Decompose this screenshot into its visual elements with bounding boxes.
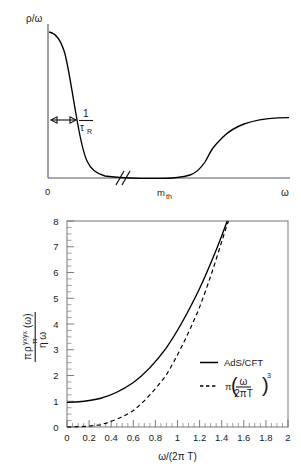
figure-root: ρ/ω 1 τ R 0 m th ω	[0, 0, 301, 469]
y-tick-3: 3	[53, 344, 74, 355]
legend: AdS/CFT π ( ) ω 2πT 3	[200, 357, 271, 399]
x-tick-label-7: 1.4	[215, 432, 228, 443]
x-tick-label-6: 1.2	[193, 432, 206, 443]
x-tick-label-8: 1.6	[237, 432, 250, 443]
top-y-axis-label: ρ/ω	[26, 13, 42, 24]
x-tick-label-4: 0.8	[149, 432, 162, 443]
x-tick-0: 0	[64, 420, 69, 443]
y-tick-2: 2	[53, 370, 74, 381]
y-tick-label-4: 4	[53, 319, 58, 330]
x-tick-label-5: 1	[175, 432, 180, 443]
relaxation-width-arrow	[51, 117, 76, 123]
y-tick-label-2: 2	[53, 370, 58, 381]
x-tick-10: 2	[285, 420, 290, 443]
x-tick-4: 0.8	[149, 420, 162, 443]
x-tick-6: 1.2	[193, 420, 206, 443]
y-tick-label-6: 6	[53, 267, 58, 278]
bottom-panel-adscft-plot: 0 1 2 3 4 5 6	[0, 212, 301, 469]
y-tick-label-7: 7	[53, 241, 58, 252]
y-axis-label-pi: π	[22, 353, 33, 360]
y-tick-label-5: 5	[53, 293, 58, 304]
top-curve-spectral-function	[49, 32, 289, 178]
y-tick-5: 5	[53, 293, 74, 304]
x-axis-label: ω/(2π T)	[158, 451, 197, 462]
y-tick-label-0: 0	[53, 422, 58, 433]
top-x-axis-label: ω	[281, 187, 289, 198]
x-axis-ticks: 0 0.2 0.4 0.6 0.8 1	[64, 420, 290, 443]
x-tick-label-9: 1.8	[259, 432, 272, 443]
relaxation-rate-numerator: 1	[83, 108, 89, 119]
x-tick-9: 1.8	[259, 420, 272, 443]
legend-item-adscft[interactable]: AdS/CFT	[200, 357, 263, 368]
top-x-tick-mth-subscript: th	[166, 193, 172, 200]
x-tick-8: 1.6	[237, 420, 250, 443]
series-adscft-curve	[67, 221, 227, 402]
y-axis-label-superscript: yxyx	[21, 331, 29, 346]
relaxation-rate-denominator-subscript: R	[87, 128, 92, 135]
legend-label-adscft: AdS/CFT	[224, 357, 263, 368]
y-tick-8: 8	[53, 216, 74, 227]
y-tick-label-1: 1	[53, 396, 58, 407]
y-axis-label-argument: (ω)	[22, 314, 33, 328]
x-tick-label-10: 2	[285, 432, 290, 443]
legend-exponent: 3	[267, 372, 271, 379]
y-tick-label-8: 8	[53, 216, 58, 227]
y-tick-1: 1	[53, 396, 74, 407]
y-tick-6: 6	[53, 267, 74, 278]
x-tick-5: 1	[175, 420, 180, 443]
top-x-tick-mth: m	[157, 187, 165, 198]
top-panel-schematic-plot: ρ/ω 1 τ R 0 m th ω	[0, 0, 301, 212]
legend-item-pi-omega-cubed[interactable]: π ( ) ω 2πT 3	[200, 372, 271, 399]
y-tick-7: 7	[53, 241, 74, 252]
x-tick-label-3: 0.6	[127, 432, 140, 443]
x-tick-3: 0.6	[127, 420, 140, 443]
series-pi-omega-cubed-curve	[67, 221, 229, 427]
y-axis-ticks: 0 1 2 3 4 5 6	[53, 216, 74, 433]
y-tick-4: 4	[53, 319, 74, 330]
legend-fraction-numerator: ω	[240, 376, 248, 387]
x-tick-label-0: 0	[64, 432, 69, 443]
x-tick-label-2: 0.4	[105, 432, 118, 443]
y-axis-label-group: π ρ yxyx ττ (ω) η ω	[21, 312, 49, 362]
relaxation-rate-denominator: τ	[80, 122, 84, 133]
y-tick-label-3: 3	[53, 344, 58, 355]
y-axis-label-rho: ρ	[22, 346, 33, 352]
x-tick-1: 0.2	[82, 420, 95, 443]
relaxation-rate-label: 1 τ R	[79, 108, 93, 135]
legend-fraction-denominator: 2πT	[234, 388, 253, 399]
x-tick-7: 1.4	[215, 420, 228, 443]
top-x-tick-origin: 0	[45, 186, 50, 197]
x-tick-label-1: 0.2	[82, 432, 95, 443]
plot-frame	[67, 221, 288, 427]
y-axis-label-denominator: η ω	[37, 332, 48, 348]
